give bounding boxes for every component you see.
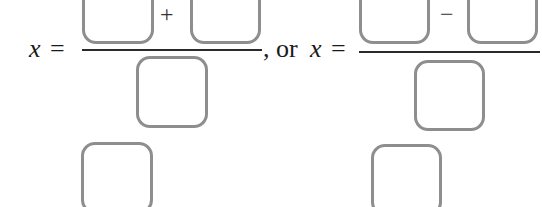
left-variable-x: x [29, 36, 41, 62]
left-equals-sign: = [50, 36, 65, 62]
or-separator: , or [263, 36, 298, 62]
right-variable-x: x [310, 36, 322, 62]
minus-operator: − [440, 2, 454, 26]
right-numerator-box-2[interactable] [467, 0, 538, 44]
left-numerator-box-2[interactable] [190, 0, 261, 44]
plus-operator: + [160, 2, 174, 26]
right-equals-sign: = [331, 36, 346, 62]
right-numerator-box-1[interactable] [359, 0, 430, 44]
left-numerator-box-1[interactable] [82, 0, 154, 44]
right-extra-box[interactable] [371, 144, 442, 207]
left-extra-box[interactable] [81, 142, 153, 207]
left-fraction-bar [82, 49, 262, 51]
right-fraction-bar [359, 51, 540, 53]
left-denominator-box[interactable] [136, 56, 208, 128]
right-denominator-box[interactable] [414, 60, 485, 131]
